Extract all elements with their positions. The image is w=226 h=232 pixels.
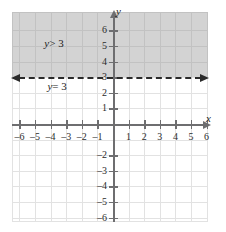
x-tick-label: –2 (77, 132, 87, 142)
region-label-rest: > 3 (49, 37, 63, 49)
region-label: y> 3 (44, 38, 63, 49)
y-tick-label: –6 (91, 213, 107, 223)
boundary-right-arrow-icon (200, 74, 209, 82)
inequality-graph-figure: –6–5–4–3–2–1123456654321–2–3–4–5–6 y> 3 … (0, 0, 226, 232)
x-tick-label: –6 (14, 132, 24, 142)
y-tick-label: 2 (91, 88, 107, 98)
x-tick-label: –4 (46, 132, 56, 142)
x-axis-label: x (206, 113, 211, 124)
y-tick-label: 1 (91, 103, 107, 113)
boundary-label: y= 3 (47, 81, 66, 92)
y-tick-label: –3 (91, 166, 107, 176)
x-tick-label: –1 (92, 132, 102, 142)
y-tick-label: 4 (91, 57, 107, 67)
x-tick-label: 2 (142, 132, 147, 142)
boundary-line-y-equals-3 (19, 77, 201, 79)
y-tick-label: 6 (91, 25, 107, 35)
coordinate-plane: –6–5–4–3–2–1123456654321–2–3–4–5–6 y> 3 … (12, 12, 208, 222)
y-axis-label: y (116, 6, 121, 17)
boundary-left-arrow-icon (11, 74, 20, 82)
y-tick-label: –2 (91, 150, 107, 160)
y-tick-label: 5 (91, 41, 107, 51)
x-tick-label: –5 (30, 132, 40, 142)
x-tick-label: 4 (173, 132, 178, 142)
axis-tick-labels: –6–5–4–3–2–1123456654321–2–3–4–5–6 (12, 12, 208, 222)
x-tick-label: –3 (61, 132, 71, 142)
x-tick-label: 6 (204, 132, 209, 142)
y-tick-label: –5 (91, 197, 107, 207)
boundary-label-rest: = 3 (52, 80, 66, 92)
x-tick-label: 3 (157, 132, 162, 142)
y-tick-label: –4 (91, 181, 107, 191)
x-tick-label: 5 (189, 132, 194, 142)
x-tick-label: 1 (126, 132, 131, 142)
